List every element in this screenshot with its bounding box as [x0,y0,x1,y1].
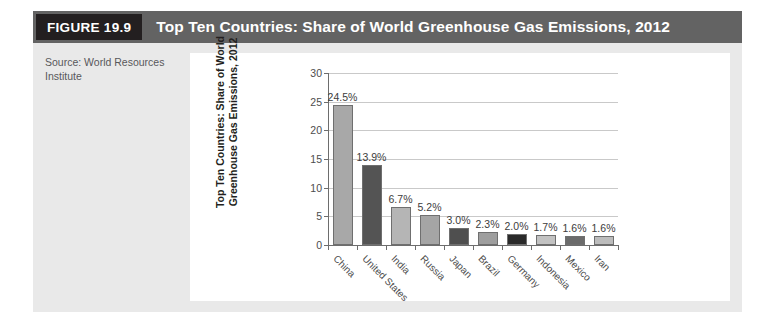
bar [507,234,527,245]
x-axis-tick-mark [502,245,503,250]
bar-data-label: 1.6% [592,222,616,234]
x-axis-tick-mark [386,245,387,250]
x-axis-tick-mark [618,245,619,250]
y-axis-title-line-1: Top Ten Countries: Share of World [214,36,227,208]
y-axis-tick-label: 15 [292,153,322,165]
gridline [328,102,618,103]
x-axis-tick-mark [328,245,329,250]
x-axis-tick-mark [589,245,590,250]
x-axis-tick-mark [357,245,358,250]
bar [536,235,556,245]
gridline [328,130,618,131]
bar-data-label: 13.9% [357,151,387,163]
x-axis-category-label: Iran [592,253,612,273]
bar [420,215,440,245]
y-axis-tick-label: 5 [292,210,322,222]
bar-data-label: 1.6% [563,222,587,234]
y-axis-title-line-2: Greenhouse Gas Emissions, 2012 [227,38,240,207]
y-axis-tick-label: 0 [292,239,322,251]
x-axis-category-label: Russia [418,253,447,282]
x-axis-category-label: Brazil [476,253,501,278]
y-axis-tick-label: 25 [292,96,322,108]
plot-region: 051015202530 24.5%13.9%6.7%5.2%3.0%2.3%2… [328,73,618,245]
bar [362,165,382,245]
bar-data-label: 5.2% [418,201,442,213]
bar-data-label: 3.0% [447,214,471,226]
source-note: Source: World Resources Institute [45,55,195,83]
y-axis-title: Top Ten Countries: Share of World Greenh… [210,32,244,212]
y-axis-tick-label: 20 [292,124,322,136]
bar [449,228,469,245]
bar [594,236,614,245]
figure-number-badge: FIGURE 19.9 [36,14,142,40]
y-axis-tick-label: 30 [292,67,322,79]
x-axis-tick-mark [444,245,445,250]
bar [391,207,411,245]
source-note-line-1: Source: World Resources [45,55,195,69]
y-axis-tick-label: 10 [292,182,322,194]
x-axis-category-label: India [389,253,412,276]
x-axis-category-label: Japan [447,253,474,280]
source-note-line-2: Institute [45,69,195,83]
figure-container: FIGURE 19.9 Top Ten Countries: Share of … [33,11,742,312]
bar-data-label: 2.0% [505,220,529,232]
bar-data-label: 2.3% [476,218,500,230]
x-axis-tick-mark [560,245,561,250]
chart-panel: Top Ten Countries: Share of World Greenh… [190,53,730,301]
bar-chart: Top Ten Countries: Share of World Greenh… [190,53,730,301]
bar [565,236,585,245]
x-axis-category-label: China [331,253,357,279]
x-axis-tick-mark [531,245,532,250]
bar [478,232,498,245]
gridline [328,73,618,74]
figure-header-bar: FIGURE 19.9 Top Ten Countries: Share of … [33,11,742,43]
bar-data-label: 6.7% [389,193,413,205]
bar [333,105,353,245]
bar-data-label: 24.5% [328,91,358,103]
bar-data-label: 1.7% [534,221,558,233]
x-axis-tick-mark [415,245,416,250]
x-axis-tick-mark [473,245,474,250]
